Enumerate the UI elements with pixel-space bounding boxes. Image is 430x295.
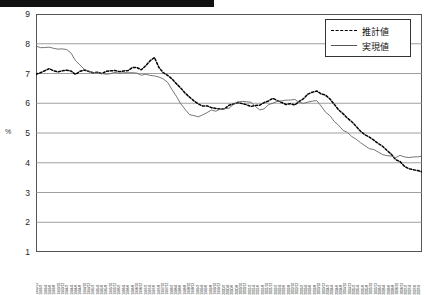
legend-item-realized: 実現値: [331, 39, 405, 54]
x-axis-tick-labels: 1992/121993/21993/41993/61993/81993/1019…: [36, 252, 422, 295]
y-tick-4: 4: [16, 159, 30, 167]
solid-line-swatch-icon: [331, 45, 357, 48]
title-banner: [0, 0, 214, 7]
x-tick-label: 2007/9: [418, 285, 422, 295]
y-tick-9: 9: [16, 10, 30, 18]
y-tick-7: 7: [16, 70, 30, 78]
y-tick-3: 3: [16, 189, 30, 197]
y-tick-1: 1: [16, 248, 30, 256]
chart-page: % 987654321 1992/121993/21993/41993/6199…: [0, 0, 430, 295]
legend-label-estimated: 推計値: [362, 25, 389, 38]
legend-label-realized: 実現値: [362, 40, 389, 53]
legend-item-estimated: 推計値: [331, 24, 405, 39]
y-tick-8: 8: [16, 40, 30, 48]
y-tick-5: 5: [16, 129, 30, 137]
chart-legend: 推計値 実現値: [325, 19, 411, 57]
y-axis-unit-label: %: [5, 128, 11, 135]
dashed-line-swatch-icon: [331, 30, 357, 33]
y-tick-2: 2: [16, 218, 30, 226]
y-tick-6: 6: [16, 99, 30, 107]
